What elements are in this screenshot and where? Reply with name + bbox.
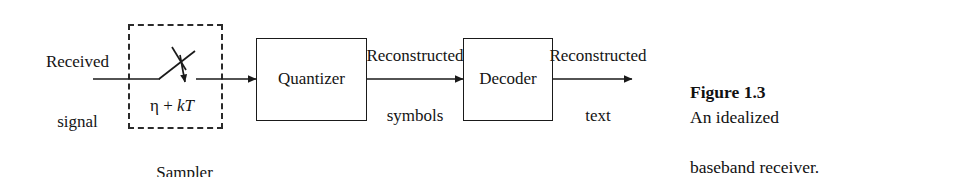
figure-caption-number: Figure 1.3: [690, 82, 766, 102]
figure-caption-line2: baseband receiver.: [690, 157, 819, 177]
figure-caption-number-text: Figure 1.3: [690, 82, 766, 102]
reconstructed-symbols-line1: Reconstructed: [345, 46, 485, 66]
quantizer-label-text: Quantizer: [278, 69, 345, 88]
sampler-formula-T: T: [185, 96, 194, 115]
sampler-label: Sampler: [126, 143, 226, 177]
sampler-formula-plus: +: [159, 96, 177, 115]
sampler-formula-k: k: [177, 96, 185, 115]
reconstructed-text-label: Reconstructed text: [528, 6, 668, 166]
input-signal-label-line2: signal: [20, 112, 135, 132]
sampler-formula-eta: η: [150, 96, 159, 115]
sampler-formula: η + kT: [150, 96, 194, 116]
figure-caption: Figure 1.3 An idealized baseband receive…: [690, 55, 940, 177]
figure-caption-rest: An idealized: [690, 107, 779, 127]
input-signal-label-line1: Received: [20, 52, 135, 72]
reconstructed-symbols-label: Reconstructed symbols: [345, 6, 485, 166]
input-signal-label: Received signal: [20, 12, 135, 172]
reconstructed-text-line1: Reconstructed: [528, 46, 668, 66]
reconstructed-symbols-line2: symbols: [345, 106, 485, 126]
sampler-label-text: Sampler: [156, 163, 213, 177]
reconstructed-text-line2: text: [528, 106, 668, 126]
figure-container: Received signal η + kT Sampler Quantizer…: [0, 0, 954, 177]
